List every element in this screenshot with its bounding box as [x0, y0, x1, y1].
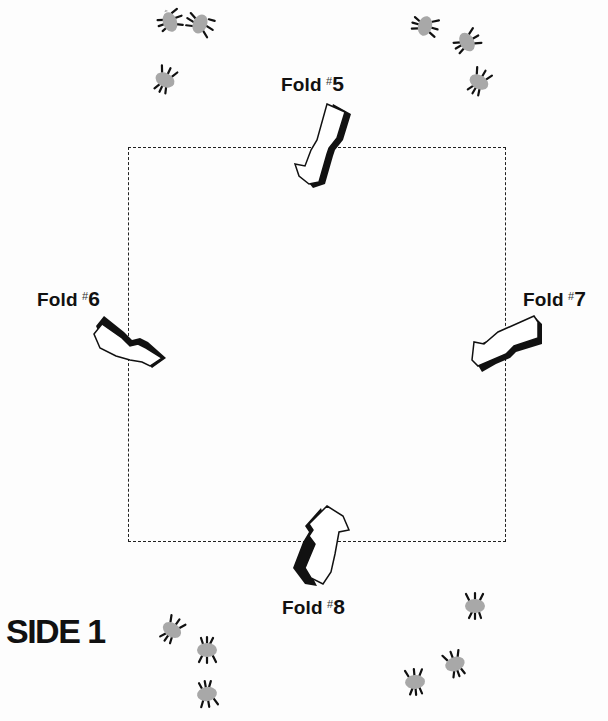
fold-6-arrow-icon — [90, 312, 170, 372]
fold-label-number: 5 — [332, 72, 344, 95]
fold-7-arrow-icon — [470, 314, 550, 374]
bug-icon — [437, 645, 474, 683]
bug-icon — [400, 666, 431, 698]
bug-icon — [461, 591, 489, 621]
fold-label-prefix: Fold — [281, 74, 322, 95]
fold-label-prefix: Fold — [523, 289, 564, 310]
bug-icon — [459, 62, 498, 102]
side-label: SIDE 1 — [6, 612, 105, 651]
bug-icon — [152, 610, 192, 651]
fold-7-label: Fold#7 — [523, 287, 586, 311]
fold-label-number: 6 — [88, 287, 100, 310]
fold-label-prefix: Fold — [37, 289, 78, 310]
instruction-page: Fold#5 Fold#6 Fold#7 Fol — [0, 0, 608, 721]
fold-8-label: Fold#8 — [282, 595, 345, 619]
fold-label-prefix: Fold — [282, 597, 323, 618]
bug-icon — [191, 677, 224, 711]
bug-icon — [407, 9, 443, 44]
bug-icon — [447, 22, 487, 61]
fold-5-label: Fold#5 — [281, 72, 344, 96]
fold-label-number: 7 — [574, 287, 586, 310]
bug-icon — [193, 635, 221, 665]
dashed-fold-square — [128, 147, 506, 542]
bug-icon — [146, 60, 184, 99]
fold-8-arrow-icon — [285, 502, 365, 592]
fold-label-number: 8 — [333, 595, 345, 618]
fold-6-label: Fold#6 — [37, 287, 100, 311]
bug-icon — [180, 5, 219, 43]
fold-5-arrow-icon — [285, 100, 365, 190]
